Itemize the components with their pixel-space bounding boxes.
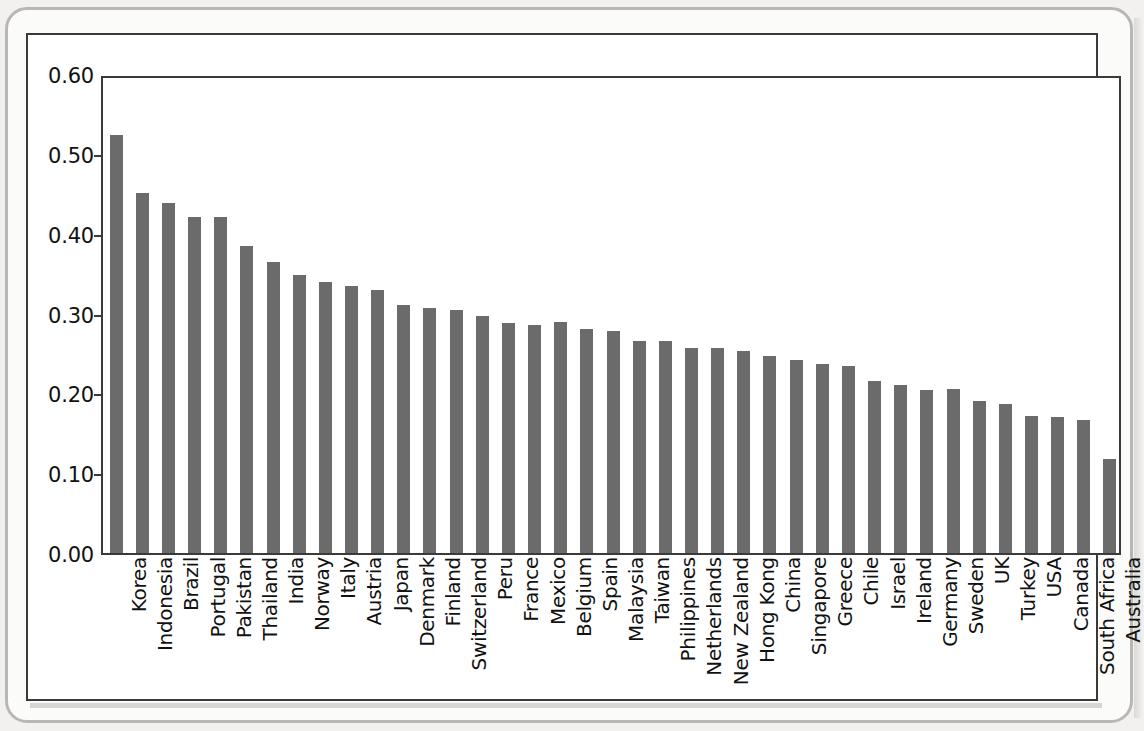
bar xyxy=(1077,420,1090,553)
x-axis-tick-label: Philippines xyxy=(676,557,700,665)
x-axis-tick-label: Belgium xyxy=(572,557,596,641)
y-axis-tick-label: 0.50 xyxy=(48,144,94,168)
x-axis-tick-label: Ireland xyxy=(912,557,936,628)
bar xyxy=(371,290,384,553)
x-axis-tick-label: France xyxy=(519,557,543,626)
x-axis-tick-label: Peru xyxy=(493,557,517,604)
bar xyxy=(397,305,410,553)
y-axis-tick-label: 0.60 xyxy=(48,64,94,88)
y-axis: 0.600.500.400.300.200.100.00 xyxy=(26,33,94,601)
x-axis-tick-label: Norway xyxy=(310,557,334,635)
x-axis-tick-label: Portugal xyxy=(206,557,230,641)
bar xyxy=(528,325,541,553)
bar xyxy=(319,282,332,553)
y-axis-tick-label: 0.30 xyxy=(48,304,94,328)
bar xyxy=(476,316,489,553)
bar xyxy=(999,404,1012,553)
bar xyxy=(162,203,175,553)
bar xyxy=(136,193,149,553)
bar xyxy=(345,286,358,553)
x-axis-tick-label: South Africa xyxy=(1095,557,1119,679)
x-axis-tick-label: Israel xyxy=(886,557,910,614)
bar xyxy=(633,341,646,553)
bar xyxy=(763,356,776,553)
x-axis-tick-label: Switzerland xyxy=(467,557,491,674)
y-axis-tick-label: 0.00 xyxy=(48,543,94,567)
bar xyxy=(790,360,803,553)
x-axis-tick-label: Singapore xyxy=(807,557,831,659)
x-axis: KoreaIndonesiaBrazilPortugalPakistanThai… xyxy=(101,557,1121,707)
bar xyxy=(1025,416,1038,553)
x-axis-tick-label: Germany xyxy=(938,557,962,651)
x-axis-tick-label: Mexico xyxy=(546,557,570,629)
x-axis-tick-label: Pakistan xyxy=(232,557,256,642)
bar xyxy=(1103,459,1116,553)
x-axis-tick-label: Brazil xyxy=(179,557,203,615)
x-axis-tick-label: Hong Kong xyxy=(755,557,779,667)
y-axis-tick-label: 0.10 xyxy=(48,463,94,487)
bar xyxy=(894,385,907,553)
bar xyxy=(920,390,933,553)
bar xyxy=(973,401,986,553)
bar xyxy=(737,351,750,553)
x-axis-tick-label: Greece xyxy=(833,557,857,630)
x-axis-tick-label: Canada xyxy=(1069,557,1093,635)
bar xyxy=(816,364,829,553)
x-axis-tick-label: Taiwan xyxy=(650,557,674,627)
bar xyxy=(947,389,960,553)
bar xyxy=(423,308,436,553)
x-axis-tick-label: Denmark xyxy=(415,557,439,651)
x-axis-tick-label: USA xyxy=(1042,557,1066,602)
bar xyxy=(110,135,123,553)
bar-chart: 0.600.500.400.300.200.100.00 KoreaIndone… xyxy=(26,33,1098,701)
bar xyxy=(868,381,881,553)
bar xyxy=(214,217,227,553)
bar xyxy=(502,323,515,553)
x-axis-tick-label: Spain xyxy=(598,557,622,615)
x-axis-tick-label: Korea xyxy=(127,557,151,616)
bar xyxy=(267,262,280,553)
x-axis-tick-label: Indonesia xyxy=(153,557,177,655)
bar xyxy=(293,275,306,553)
x-axis-tick-label: Finland xyxy=(441,557,465,630)
bar xyxy=(659,341,672,553)
x-axis-tick-label: Sweden xyxy=(964,557,988,638)
x-axis-tick-label: Italy xyxy=(336,557,360,603)
x-axis-tick-label: Netherlands xyxy=(702,557,726,680)
bar xyxy=(685,348,698,553)
x-axis-tick-label: UK xyxy=(990,557,1014,588)
bar xyxy=(842,366,855,553)
y-axis-tick-label: 0.20 xyxy=(48,383,94,407)
y-axis-tick-label: 0.40 xyxy=(48,224,94,248)
x-axis-tick-label: Austria xyxy=(362,557,386,630)
x-axis-tick-label: New Zealand xyxy=(729,557,753,689)
bar xyxy=(554,322,567,553)
bar xyxy=(580,329,593,553)
x-axis-tick-label: Malaysia xyxy=(624,557,648,646)
x-axis-tick-label: India xyxy=(284,557,308,609)
bar xyxy=(240,246,253,553)
bar xyxy=(607,331,620,553)
plot-area xyxy=(101,76,1121,555)
x-axis-tick-label: China xyxy=(781,557,805,617)
x-axis-tick-label: Turkey xyxy=(1016,557,1040,624)
x-axis-tick-label: Japan xyxy=(389,557,413,615)
bar xyxy=(188,217,201,553)
x-axis-tick-label: Australia xyxy=(1121,557,1144,647)
bar xyxy=(711,348,724,553)
x-axis-tick-label: Chile xyxy=(859,557,883,610)
bar xyxy=(450,310,463,553)
bar xyxy=(1051,417,1064,554)
x-axis-tick-label: Thailand xyxy=(258,557,282,645)
